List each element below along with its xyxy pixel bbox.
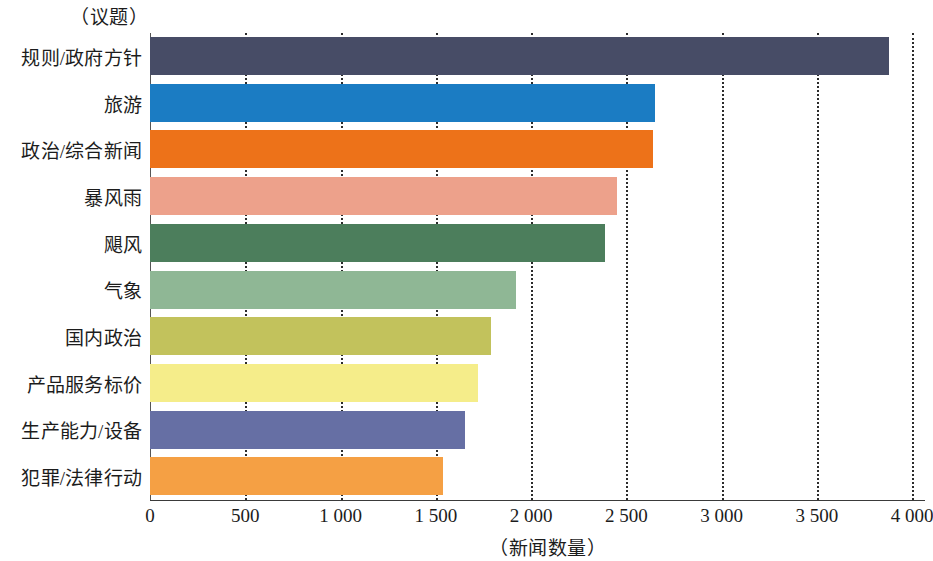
bar-row[interactable] bbox=[150, 267, 912, 314]
bar[interactable] bbox=[150, 457, 443, 495]
x-tick-label: 2 500 bbox=[605, 505, 648, 527]
category-label: 规则/政府方针 bbox=[21, 33, 142, 80]
bar-row[interactable] bbox=[150, 80, 912, 127]
bar[interactable] bbox=[150, 130, 653, 168]
bar[interactable] bbox=[150, 84, 655, 122]
x-tick-label: 3 000 bbox=[700, 505, 743, 527]
bar[interactable] bbox=[150, 224, 605, 262]
x-axis-ticks: 05001 0001 5002 0002 5003 0003 5004 000 bbox=[150, 505, 912, 531]
plot-area bbox=[150, 33, 912, 500]
gridline-4000 bbox=[912, 33, 914, 500]
bar-row[interactable] bbox=[150, 173, 912, 220]
x-axis-title-text: （新闻数量） bbox=[489, 538, 606, 559]
bar[interactable] bbox=[150, 177, 617, 215]
x-axis-line bbox=[150, 500, 925, 501]
bar-row[interactable] bbox=[150, 220, 912, 267]
x-tick-label: 4 000 bbox=[891, 505, 933, 527]
category-axis-labels: 规则/政府方针旅游政治/综合新闻暴风雨飓风气象国内政治产品服务标价生产能力/设备… bbox=[0, 33, 146, 500]
bar-row[interactable] bbox=[150, 453, 912, 500]
bar-row[interactable] bbox=[150, 360, 912, 407]
category-label: 暴风雨 bbox=[84, 173, 142, 220]
category-label: 国内政治 bbox=[65, 313, 142, 360]
bar-series bbox=[150, 33, 912, 500]
category-label: 政治/综合新闻 bbox=[21, 126, 142, 173]
x-tick-label: 0 bbox=[145, 505, 155, 527]
x-axis-title: （新闻数量） bbox=[0, 533, 931, 560]
bar-row[interactable] bbox=[150, 313, 912, 360]
x-tick-label: 500 bbox=[231, 505, 260, 527]
category-label: 旅游 bbox=[104, 80, 142, 127]
category-label: 生产能力/设备 bbox=[21, 407, 142, 454]
category-label: 飓风 bbox=[104, 220, 142, 267]
bar[interactable] bbox=[150, 364, 478, 402]
chart-title: （议题） bbox=[70, 2, 148, 29]
category-label: 气象 bbox=[104, 267, 142, 314]
category-label: 产品服务标价 bbox=[27, 360, 142, 407]
bar[interactable] bbox=[150, 271, 516, 309]
x-tick-label: 1 000 bbox=[319, 505, 362, 527]
x-tick-label: 1 500 bbox=[414, 505, 457, 527]
category-label: 犯罪/法律行动 bbox=[21, 453, 142, 500]
bar[interactable] bbox=[150, 37, 889, 75]
bar-row[interactable] bbox=[150, 126, 912, 173]
bar[interactable] bbox=[150, 411, 465, 449]
x-tick-label: 2 000 bbox=[510, 505, 553, 527]
bar-row[interactable] bbox=[150, 407, 912, 454]
bar-row[interactable] bbox=[150, 33, 912, 80]
bar[interactable] bbox=[150, 317, 491, 355]
x-tick-label: 3 500 bbox=[795, 505, 838, 527]
